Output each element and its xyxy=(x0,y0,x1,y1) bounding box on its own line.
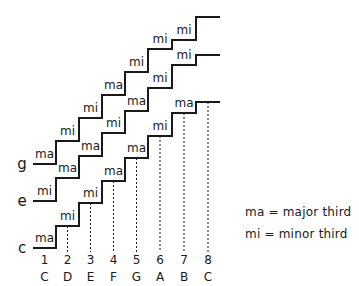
interval-label-ma: ma xyxy=(58,161,77,175)
dashed-degree-lines xyxy=(68,102,209,252)
note-name: G xyxy=(132,270,141,284)
interval-label-mi: mi xyxy=(129,55,144,69)
degree-number: 1 xyxy=(41,253,49,267)
interval-label-ma: ma xyxy=(35,147,54,161)
interval-label-ma: ma xyxy=(127,94,146,108)
legend-minor-third: mi = minor third xyxy=(245,227,348,241)
interval-label-ma: ma xyxy=(81,139,100,153)
degree-number: 3 xyxy=(87,253,95,267)
note-name: C xyxy=(204,270,212,284)
note-name: E xyxy=(87,270,95,284)
interval-label-ma: ma xyxy=(127,141,146,155)
row-label-c: c xyxy=(18,239,26,257)
row-labels: ceg xyxy=(17,155,27,257)
triad-staircase-diagram: mamimimamamimamimamamimamimimamimimamimi… xyxy=(0,0,359,286)
note-name: B xyxy=(180,270,188,284)
note-name: F xyxy=(110,270,117,284)
interval-label-ma: ma xyxy=(104,78,123,92)
scale-axis: 1C2D3E4F5G6A7B8C xyxy=(40,253,212,284)
interval-label-mi: mi xyxy=(60,209,75,223)
interval-label-mi: mi xyxy=(176,48,191,62)
interval-label-mi: mi xyxy=(106,116,121,130)
interval-label-mi: mi xyxy=(176,23,191,37)
interval-label-mi: mi xyxy=(152,71,167,85)
interval-label-mi: mi xyxy=(60,124,75,138)
degree-number: 2 xyxy=(64,253,72,267)
interval-label-ma: ma xyxy=(35,231,54,245)
interval-label-mi: mi xyxy=(152,32,167,46)
note-name: C xyxy=(40,270,48,284)
degree-number: 5 xyxy=(133,253,141,267)
interval-label-mi: mi xyxy=(83,101,98,115)
row-label-e: e xyxy=(17,192,26,210)
interval-label-ma: ma xyxy=(104,164,123,178)
degree-number: 7 xyxy=(180,253,188,267)
interval-label-mi: mi xyxy=(83,186,98,200)
legend-major-third: ma = major third xyxy=(245,205,351,219)
note-name: D xyxy=(63,270,72,284)
interval-label-ma: ma xyxy=(174,96,193,110)
degree-number: 8 xyxy=(204,253,212,267)
degree-number: 4 xyxy=(110,253,118,267)
degree-number: 6 xyxy=(156,253,164,267)
row-label-g: g xyxy=(17,155,27,173)
interval-label-mi: mi xyxy=(152,119,167,133)
interval-label-mi: mi xyxy=(37,184,52,198)
note-name: A xyxy=(156,270,165,284)
